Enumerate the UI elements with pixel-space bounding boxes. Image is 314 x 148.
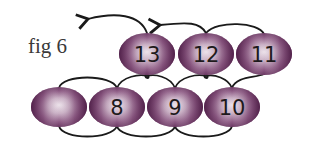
thread-9-12 bbox=[175, 75, 206, 88]
bead-label: 13 bbox=[134, 43, 161, 67]
thread-11-12 bbox=[206, 24, 264, 34]
bead-10: 10 bbox=[204, 87, 260, 127]
bead-label: 9 bbox=[168, 96, 181, 120]
bead-label: 10 bbox=[219, 96, 246, 120]
bead-label: 8 bbox=[110, 96, 123, 120]
bead-11: 11 bbox=[236, 33, 292, 75]
thread-10-11 bbox=[232, 74, 264, 88]
bead-8: 8 bbox=[89, 87, 145, 127]
bead-12: 12 bbox=[178, 33, 234, 75]
thread-loop-blank-8-top bbox=[59, 78, 117, 89]
thread-loop-8-9-bottom bbox=[117, 126, 175, 137]
thread-loop-9-10-bottom bbox=[175, 126, 232, 137]
thread-arrow-12 bbox=[160, 23, 206, 33]
thread-8-13 bbox=[117, 75, 147, 88]
thread-loop-blank-8-bottom bbox=[59, 126, 117, 137]
thread-arrow-13 bbox=[88, 15, 147, 33]
bead-9: 9 bbox=[147, 87, 203, 127]
bead-13: 13 bbox=[119, 33, 175, 75]
thread-12-10 bbox=[206, 76, 232, 89]
bead-label: 12 bbox=[193, 43, 220, 67]
thread-13-9 bbox=[147, 75, 175, 88]
bead-label: 11 bbox=[251, 43, 278, 67]
bead-weaving-diagram: 13 12 11 8 9 10 bbox=[0, 0, 314, 148]
bead-blank bbox=[31, 87, 87, 127]
